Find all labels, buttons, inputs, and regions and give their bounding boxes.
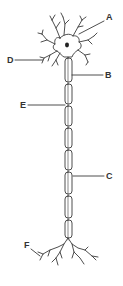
myelin-segment <box>65 196 72 218</box>
label-c: C <box>106 172 113 181</box>
dendrite <box>38 30 55 44</box>
dendrite <box>40 51 57 63</box>
dendrite <box>73 16 86 36</box>
myelin-segment <box>65 106 72 126</box>
label-a: A <box>106 13 113 22</box>
dendrite <box>78 50 90 65</box>
myelin-segment <box>65 84 72 104</box>
dendrite <box>61 13 69 35</box>
myelin-segment <box>65 220 72 238</box>
neuron-diagram: A B C D E F <box>0 0 123 286</box>
dendrite <box>79 33 97 44</box>
axon-terminal <box>38 238 98 265</box>
myelin-segment <box>65 58 72 82</box>
label-f: F <box>24 241 30 250</box>
myelin-segment <box>65 150 72 170</box>
nucleus <box>65 43 69 48</box>
myelin-segment <box>65 128 72 148</box>
label-e: E <box>20 101 26 110</box>
axon <box>65 57 72 240</box>
neuron-drawing <box>0 0 123 286</box>
label-b: B <box>105 71 112 80</box>
label-d: D <box>7 56 14 65</box>
dendrite <box>52 53 60 66</box>
myelin-segment <box>65 172 72 194</box>
leader-line-a <box>79 21 104 34</box>
dendrite <box>50 15 60 38</box>
